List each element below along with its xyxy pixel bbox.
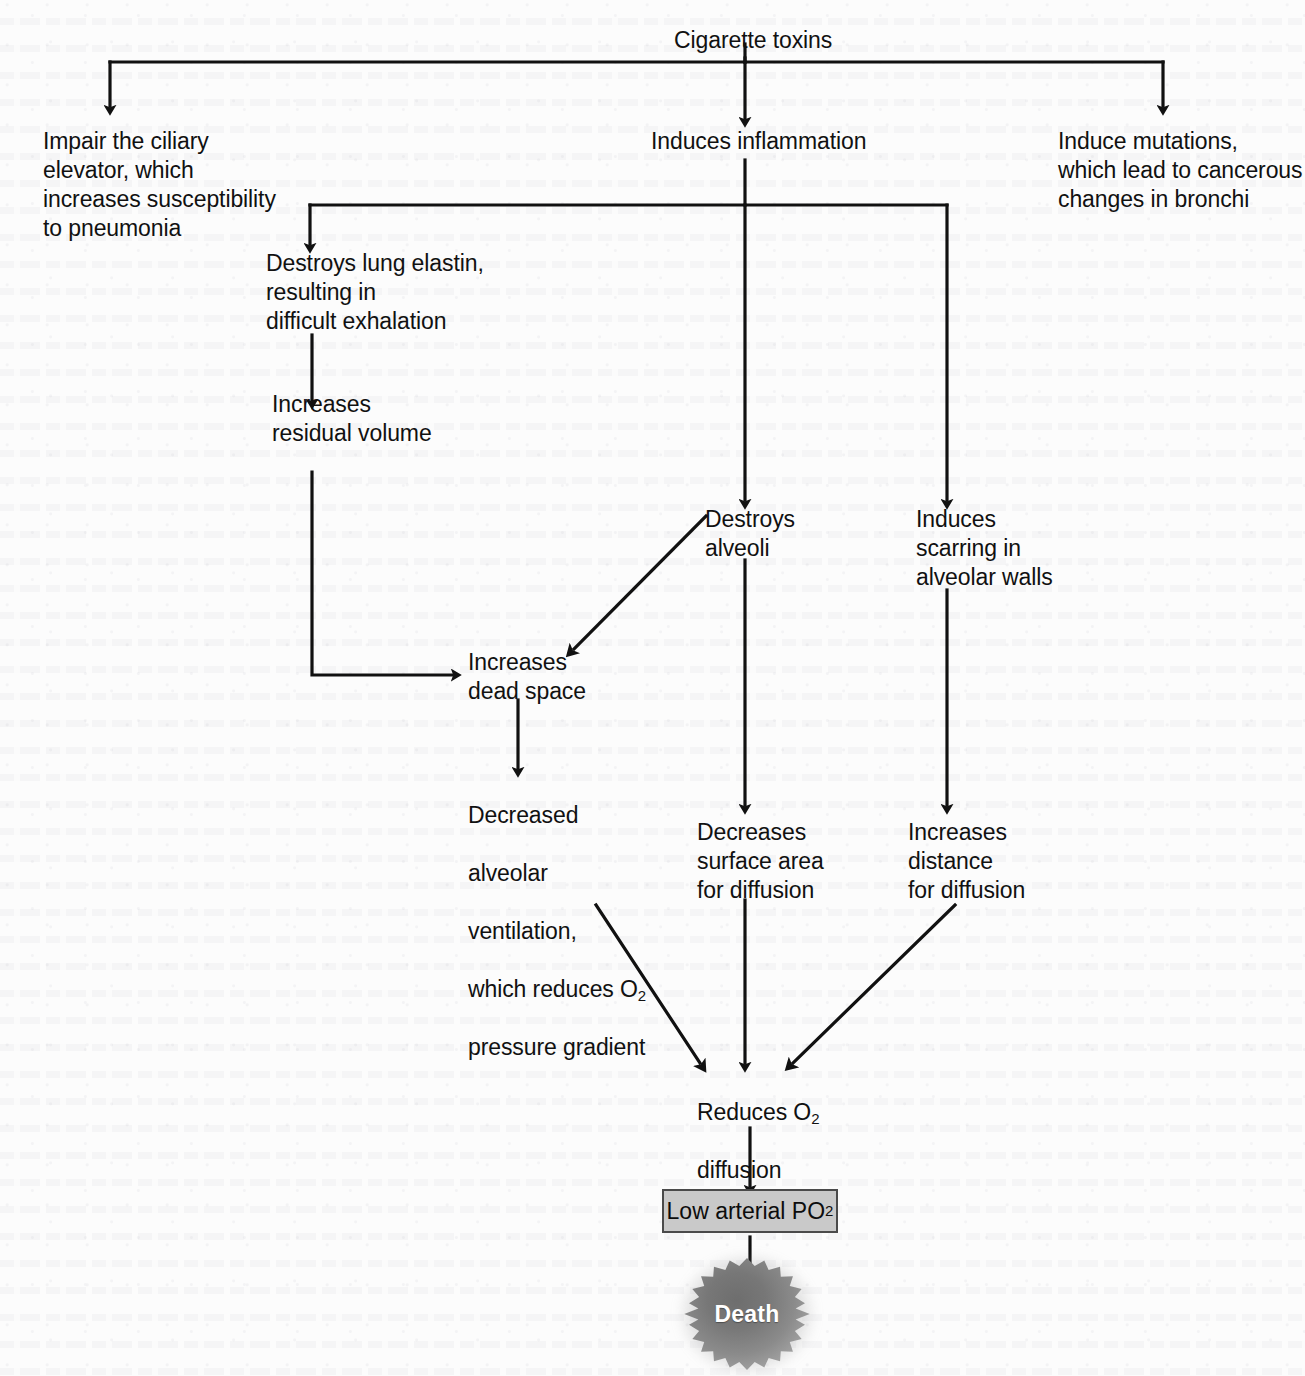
node-destroys-alveoli: Destroys alveoli (705, 505, 795, 563)
node-death-starburst: Death (683, 1258, 811, 1370)
reduces-line-2: diffusion (697, 1156, 819, 1185)
node-impair-ciliary-elevator: Impair the ciliary elevator, which incre… (43, 127, 276, 243)
edge-alveoli-to-deadspace (574, 516, 706, 649)
edge-residual-to-deadspace (312, 472, 452, 675)
death-label: Death (715, 1301, 780, 1328)
oxygen-subscript: 2 (638, 987, 646, 1004)
node-increases-distance: Increases distance for diffusion (908, 818, 1025, 905)
ventilation-line-4-text: which reduces O (468, 976, 638, 1002)
node-decreases-surface-area: Decreases surface area for diffusion (697, 818, 824, 905)
node-destroys-lung-elastin: Destroys lung elastin, resulting in diff… (266, 249, 484, 336)
node-induces-inflammation: Induces inflammation (651, 127, 866, 156)
edge-distance-to-reduces (793, 905, 955, 1063)
ventilation-line-5: pressure gradient (468, 1033, 646, 1062)
po2-label-text: Low arterial PO (667, 1198, 826, 1225)
reduces-line-1-text: Reduces O (697, 1099, 811, 1125)
ventilation-line-2: alveolar (468, 859, 646, 888)
ventilation-line-1: Decreased (468, 801, 646, 830)
node-cigarette-toxins: Cigarette toxins (674, 26, 832, 55)
node-low-arterial-po2: Low arterial PO2 (662, 1189, 838, 1233)
ventilation-line-4: which reduces O2 (468, 975, 646, 1004)
node-increases-residual-volume: Increases residual volume (272, 390, 432, 448)
ventilation-line-3: ventilation, (468, 917, 646, 946)
node-decreased-alveolar-ventilation: Decreased alveolar ventilation, which re… (468, 772, 646, 1091)
node-induce-mutations: Induce mutations, which lead to cancerou… (1058, 127, 1302, 214)
reduces-line-1: Reduces O2 (697, 1098, 819, 1127)
oxygen-subscript: 2 (811, 1110, 819, 1127)
node-increases-dead-space: Increases dead space (468, 648, 586, 706)
node-induces-scarring: Induces scarring in alveolar walls (916, 505, 1053, 592)
